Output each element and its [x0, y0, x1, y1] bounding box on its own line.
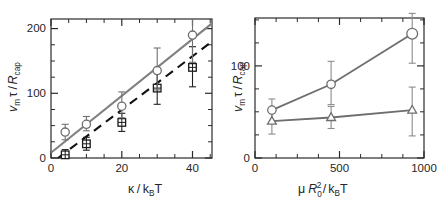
left-ytick-100: 100	[27, 87, 46, 99]
right-ylabel-R: R	[231, 75, 245, 84]
left-xtick-0: 0	[48, 162, 54, 174]
right-xlabel-slash: /	[323, 182, 327, 196]
right-x-minor-ticks	[276, 18, 403, 158]
left-ylabel-m: m	[13, 99, 22, 106]
svg-text:κ/kBT: κ/kBT	[128, 182, 162, 198]
left-circles-markers	[61, 31, 197, 136]
right-xtick-1000: 1000	[411, 162, 437, 174]
right-ytick-0: 0	[244, 152, 250, 164]
left-x-minor-ticks	[69, 19, 211, 158]
right-panel-svg: 100 0 0 500 1000 μR02/kBT vmτ/Rcap	[228, 0, 441, 204]
left-circles-fit-line	[51, 23, 212, 152]
right-x-major-ticks	[255, 18, 424, 158]
right-circles-connect-line	[272, 34, 412, 110]
left-ytick-0: 0	[40, 152, 46, 164]
left-xtick-40: 40	[186, 162, 199, 174]
right-xtick-500: 500	[330, 162, 349, 174]
right-xlabel-mu: μ	[298, 182, 305, 196]
left-ylabel-slash: /	[6, 85, 20, 89]
left-squares-markers	[61, 64, 196, 159]
right-panel: 100 0 0 500 1000 μR02/kBT vmτ/Rcap	[228, 0, 441, 204]
right-xlabel-T: T	[340, 182, 348, 196]
right-xlabel-zero: 0	[317, 190, 322, 199]
right-triangles-markers	[268, 106, 417, 125]
right-triangles-connect-line	[272, 110, 412, 121]
right-ylabel-cap: cap	[238, 62, 247, 76]
right-xtick-0: 0	[252, 162, 258, 174]
left-ytick-200: 200	[27, 22, 46, 34]
left-ylabel-tau: τ	[6, 92, 20, 97]
svg-text:vmτ/Rcap: vmτ/Rcap	[6, 62, 22, 112]
left-ylabel-cap: cap	[13, 62, 22, 76]
left-squares-fit-line	[58, 42, 212, 159]
left-panel: 200 100 0 0 20 40 κ/kBT vmτ/Rcap	[0, 0, 228, 204]
left-squares-inner-marks	[61, 64, 196, 159]
left-circles-errorbars	[62, 19, 196, 140]
left-yaxis-label: vmτ/Rcap	[6, 62, 22, 112]
left-xtick-20: 20	[115, 162, 128, 174]
right-plot-frame	[255, 18, 424, 158]
right-xaxis-label: μR02/kBT	[298, 181, 348, 199]
right-ylabel-m: m	[238, 99, 247, 106]
left-squares-errorbars	[62, 47, 196, 158]
left-xlabel-slash: /	[137, 182, 141, 196]
right-xlabel-two: 2	[317, 181, 322, 190]
right-ylabel-slash: /	[231, 85, 245, 89]
left-x-major-ticks	[51, 19, 193, 158]
right-ylabel-tau: τ	[231, 92, 245, 97]
left-xaxis-label: κ/kBT	[128, 182, 162, 198]
svg-text:μR02/kBT: μR02/kBT	[298, 181, 348, 199]
figure-container: 200 100 0 0 20 40 κ/kBT vmτ/Rcap	[0, 0, 441, 204]
right-y-minor-ticks	[255, 20, 424, 135]
left-xlabel-kappa: κ	[128, 182, 135, 196]
left-y-major-ticks	[51, 29, 212, 158]
left-y-minor-ticks	[51, 45, 212, 142]
left-xlabel-T: T	[154, 182, 162, 196]
right-circles-errorbars	[268, 13, 415, 123]
left-ylabel-R: R	[6, 75, 20, 84]
left-panel-svg: 200 100 0 0 20 40 κ/kBT vmτ/Rcap	[0, 0, 228, 204]
